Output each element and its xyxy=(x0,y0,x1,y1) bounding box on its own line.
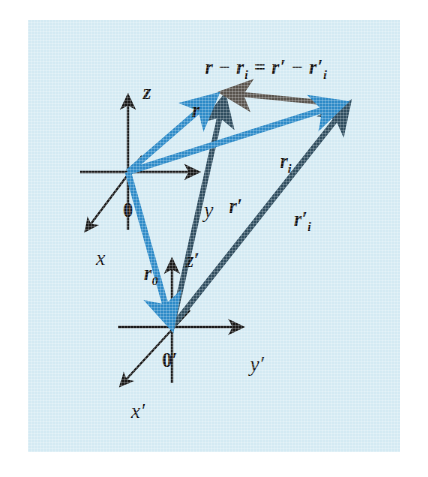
vector-r-prime-i-label: r′i xyxy=(294,209,311,233)
vector-r-prime-label: r′ xyxy=(229,196,242,216)
eq-r-prime: r xyxy=(272,56,280,78)
difference-equation: r − ri = r′ − r′i xyxy=(205,56,328,83)
eq-r: r xyxy=(205,56,213,78)
eq-equals: = xyxy=(254,56,266,78)
origin-label: 0 xyxy=(123,200,133,220)
eq-minus-2: − xyxy=(292,56,304,78)
vector-r-prime-i-base: r′ xyxy=(294,208,307,230)
z-axis-label: z xyxy=(143,82,151,103)
vector-r-i-subscript: i xyxy=(288,161,292,176)
vector-r-zero-label: r0 xyxy=(144,263,158,287)
vector-r-zero-subscript: 0 xyxy=(152,273,159,288)
vector-difference xyxy=(228,93,337,104)
x-axis-label: x xyxy=(96,248,105,269)
vector-r-i xyxy=(128,105,338,172)
eq-r2: r xyxy=(236,56,244,78)
vector-r-label: r xyxy=(192,100,200,120)
eq-prime-sub-i: i xyxy=(323,67,327,82)
vector-r-i-label: ri xyxy=(280,151,291,175)
x-prime-axis-label: x′ xyxy=(131,401,145,422)
eq-prime-1: ′ xyxy=(280,56,286,78)
vector-canvas xyxy=(28,20,400,452)
eq-minus: − xyxy=(219,56,231,78)
y-axis-label: y xyxy=(204,200,213,221)
origin-prime-label: 0′ xyxy=(162,350,178,370)
vector-r-i-base: r xyxy=(280,150,288,172)
z-prime-axis-label: z′ xyxy=(186,250,199,270)
eq-r-prime-2: r xyxy=(309,56,317,78)
eq-sub-i: i xyxy=(245,67,249,82)
primed-frame-axes xyxy=(118,262,240,384)
figure-panel: r − ri = r′ − r′i z y x 0 z′ y′ x′ 0′ r … xyxy=(28,20,400,452)
figure-root: r − ri = r′ − r′i z y x 0 z′ y′ x′ 0′ r … xyxy=(0,0,428,477)
vector-r-zero-base: r xyxy=(144,262,152,284)
vector-r-zero xyxy=(128,172,170,321)
y-prime-axis-label: y′ xyxy=(250,354,264,375)
vector-r-prime-i-subscript: i xyxy=(307,219,311,234)
